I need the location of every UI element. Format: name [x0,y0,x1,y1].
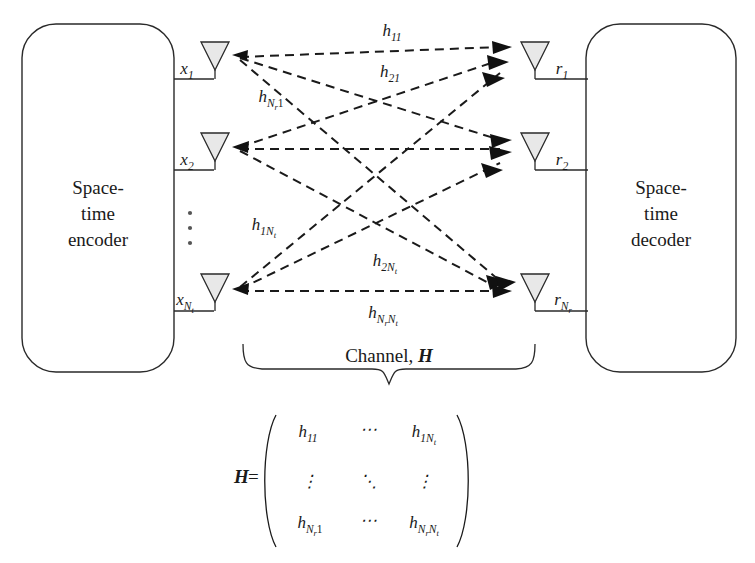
tx2-signal-label: x2 [179,150,194,172]
matrix-cell-r1c0: ⋮ [301,472,318,491]
matrix-right-parenthesis [457,415,468,547]
encoder-box-outline [22,24,174,372]
diagram-canvas: Space- time encoder Space- time decoder … [0,0,755,563]
decoder-label-line2: time [644,203,678,224]
arrowhead-rx2-a [490,134,512,148]
channel-matrix-equation: H = h11 ⋯ h1Nt ⋮ ⋱ ⋮ hNr1 ⋯ hNrNt [233,415,468,547]
matrix-cell-r2c0: hNr1 [297,513,322,538]
channel-brace: Channel, H [243,344,535,384]
decoder-label-line3: decoder [631,229,692,250]
decoder-label-line1: Space- [635,177,687,198]
transmit-antenna-2: x2 [174,133,229,172]
mimo-system-figure: Space- time encoder Space- time decoder … [0,0,755,563]
encoder-label-line2: time [81,203,115,224]
tx-ellipsis-dot-2 [188,226,192,230]
channel-label-h11: h11 [382,21,401,43]
channel-brace-label: Channel, H [345,345,434,366]
arrowheads-transmit-side [232,50,249,295]
arrowheads-receive-side [481,41,516,298]
channel-label-hNr1: hNr1 [258,87,283,112]
tx1-antenna-triangle [201,42,229,70]
space-time-decoder-block: Space- time decoder [586,24,736,372]
channel-label-h1Nt: h1Nt [252,215,277,240]
receive-antenna-nr: rNr [521,274,588,315]
channel-label-h21: h21 [380,62,400,84]
transmit-antenna-nt: xNt [174,274,229,315]
transmit-antenna-1: x1 [174,42,229,81]
channel-label-hNrNt: hNrNt [368,303,398,328]
matrix-cell-r2c2: hNrNt [409,513,439,538]
arrowhead-rx2-b [489,146,512,160]
channel-path-tx1-rxnr [240,60,500,281]
matrix-equals-sign: = [248,466,259,487]
channel-brace-symbol: H [417,345,434,366]
channel-brace-text: Channel, [345,345,418,366]
receive-antenna-1: r1 [521,42,588,81]
arrowhead-rx2-c [481,163,503,178]
matrix-cell-r1c2: ⋮ [416,472,433,491]
matrix-cell-r1c1: ⋱ [360,472,377,491]
rx1-signal-label: r1 [556,59,568,81]
txnt-antenna-triangle [201,274,229,302]
tx-ellipsis-dot-3 [188,241,192,245]
tx2-antenna-triangle [201,133,229,161]
decoder-box-outline [586,24,736,372]
matrix-left-parenthesis [265,415,276,547]
encoder-label-line3: encoder [68,229,129,250]
tx1-signal-label: x1 [179,59,193,81]
rx2-antenna-triangle [521,133,549,161]
rxnr-antenna-triangle [521,274,549,302]
arrowhead-rx1-b [487,55,509,70]
transmit-antenna-ellipsis [188,211,192,245]
channel-path-tx1-rx1 [240,47,500,57]
matrix-cell-r0c0: h11 [298,422,317,444]
channel-path-txnt-rx2 [240,163,500,289]
tx-ellipsis-dot-1 [188,211,192,215]
rx2-signal-label: r2 [556,150,569,172]
channel-label-h2Nt: h2Nt [373,251,398,276]
receive-antenna-2: r2 [521,133,588,172]
matrix-cell-r0c1: ⋯ [360,420,377,439]
rx1-antenna-triangle [521,42,549,70]
arrowhead-txnt [232,283,249,295]
encoder-label-line1: Space- [72,177,124,198]
space-time-encoder-block: Space- time encoder [22,24,174,372]
matrix-cell-r0c2: h1Nt [412,422,437,447]
channel-path-group-tx1 [240,47,500,281]
arrowhead-rx1-a [492,41,512,54]
matrix-cell-r2c1: ⋯ [360,511,377,530]
